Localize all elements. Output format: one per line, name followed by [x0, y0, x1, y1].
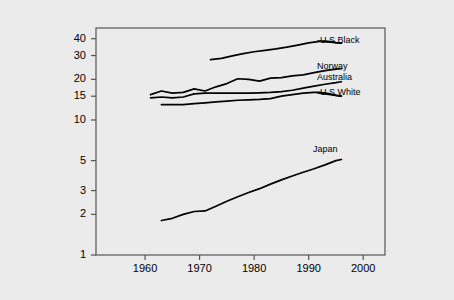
series-label-u-s-white: U.S White	[320, 88, 361, 97]
y-tick-label: 40	[52, 33, 86, 44]
series-label-u-s-black: U.S Black	[320, 36, 360, 45]
y-tick-label: 30	[52, 50, 86, 61]
y-tick-label: 3	[52, 185, 86, 196]
series-label-australia: Australia	[317, 73, 352, 82]
series-label-norway: Norway	[317, 62, 348, 71]
y-tick-label: 2	[52, 208, 86, 219]
x-tick-label: 1960	[120, 263, 170, 274]
y-tick-label: 15	[52, 90, 86, 101]
x-tick-label: 2000	[338, 263, 388, 274]
x-tick-label: 1980	[229, 263, 279, 274]
x-tick-label: 1970	[175, 263, 225, 274]
y-tick-label: 10	[52, 114, 86, 125]
x-tick-label: 1990	[284, 263, 334, 274]
y-tick-label: 5	[52, 155, 86, 166]
y-tick-label: 20	[52, 73, 86, 84]
y-tick-label: 1	[52, 249, 86, 260]
series-label-japan: Japan	[313, 145, 338, 154]
chart-canvas: 1235101520304019601970198019902000U.S Bl…	[0, 0, 454, 300]
